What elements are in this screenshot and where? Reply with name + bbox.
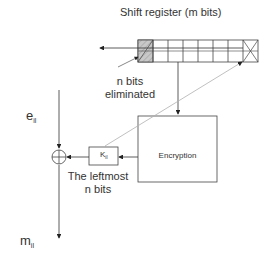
xor-icon bbox=[52, 150, 66, 164]
cfb-diagram bbox=[0, 0, 275, 261]
input-label: eil bbox=[26, 108, 36, 123]
shift-register bbox=[138, 40, 258, 62]
encryption-box bbox=[138, 116, 217, 182]
eliminated-label: n bits eliminated bbox=[100, 75, 160, 101]
eliminated-line2: eliminated bbox=[100, 88, 160, 101]
eliminated-line1: n bits bbox=[100, 75, 160, 88]
output-subscript: il bbox=[31, 242, 34, 249]
leftmost-line1: The leftmost bbox=[66, 170, 130, 183]
leftmost-line2: n bits bbox=[66, 183, 130, 196]
diagram-title: Shift register (m bits) bbox=[120, 6, 220, 18]
eliminated-pointer bbox=[118, 57, 138, 67]
encryption-label: Encryption bbox=[138, 151, 217, 160]
key-label: Kil bbox=[100, 150, 108, 159]
output-label: mil bbox=[20, 233, 34, 248]
output-symbol: m bbox=[20, 233, 31, 248]
key-subscript: il bbox=[105, 154, 107, 160]
leftmost-label: The leftmost n bits bbox=[66, 170, 130, 196]
input-subscript: il bbox=[33, 117, 36, 124]
